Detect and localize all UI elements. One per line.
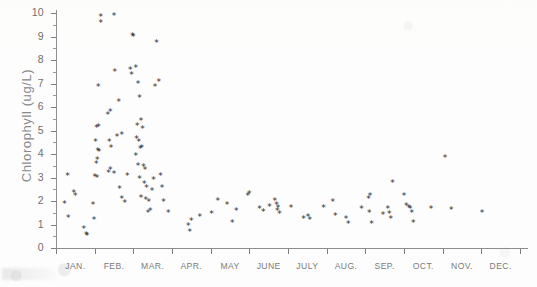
data-point [410, 220, 417, 227]
data-point [266, 204, 273, 211]
data-point [223, 202, 230, 209]
x-tick [481, 249, 482, 254]
data-point [61, 201, 68, 208]
data-point [441, 155, 448, 162]
data-point [92, 139, 99, 146]
x-tick-label: APR. [169, 261, 213, 271]
data-point [106, 139, 113, 146]
data-point [141, 167, 148, 174]
data-point [93, 175, 100, 182]
y-tick-label: 8 [26, 53, 44, 65]
data-point [130, 34, 137, 41]
y-tick-label: 2 [26, 194, 44, 206]
x-tick [288, 249, 289, 254]
data-point [401, 193, 408, 200]
y-tick-label: 9 [26, 30, 44, 42]
x-tick [365, 249, 366, 254]
y-tick-minor [53, 213, 56, 214]
x-tick-label: MAY [208, 261, 252, 271]
y-tick-label: 3 [26, 171, 44, 183]
data-point [288, 205, 295, 212]
data-point [246, 191, 253, 198]
x-tick-label: SEP. [363, 261, 407, 271]
data-point [118, 132, 125, 139]
data-point [111, 171, 118, 178]
y-tick-label: 0 [26, 241, 44, 253]
data-point [121, 200, 128, 207]
data-point [479, 210, 486, 217]
y-tick-major [51, 225, 56, 226]
y-tick-major [51, 13, 56, 14]
data-point [157, 173, 164, 180]
data-point [448, 207, 455, 214]
data-point [320, 205, 327, 212]
x-tick [404, 249, 405, 254]
y-tick-major [51, 154, 56, 155]
y-tick-label: 7 [26, 77, 44, 89]
y-tick-major [51, 37, 56, 38]
data-point [136, 95, 143, 102]
x-tick-label: JAN. [53, 261, 97, 271]
data-point [306, 217, 313, 224]
y-tick-minor [53, 142, 56, 143]
y-tick-minor [53, 25, 56, 26]
data-point [148, 188, 155, 195]
data-point [387, 216, 394, 223]
data-point [153, 40, 160, 47]
data-point [95, 124, 102, 131]
data-point [188, 218, 195, 225]
x-tick [95, 249, 96, 254]
data-point [186, 229, 193, 236]
y-tick-major [51, 131, 56, 132]
data-point [366, 210, 373, 217]
data-point [134, 81, 141, 88]
data-point [90, 217, 97, 224]
data-point [95, 84, 102, 91]
x-tick [443, 249, 444, 254]
data-point [107, 109, 114, 116]
data-point [329, 199, 336, 206]
data-point [408, 210, 415, 217]
y-tick-label: 4 [26, 147, 44, 159]
x-tick [211, 249, 212, 254]
y-tick-minor [53, 119, 56, 120]
data-point [345, 221, 352, 228]
data-point [165, 210, 172, 217]
y-tick-major [51, 178, 56, 179]
data-point [115, 99, 122, 106]
data-point [155, 79, 162, 86]
x-tick [249, 249, 250, 254]
data-point [158, 185, 165, 192]
x-tick-label: OCT. [401, 261, 445, 271]
data-point [233, 208, 240, 215]
y-tick-minor [53, 166, 56, 167]
y-tick-label: 1 [26, 218, 44, 230]
x-axis-line [56, 248, 528, 249]
y-tick-major [51, 107, 56, 108]
x-tick-label: AUG. [324, 261, 368, 271]
data-point [90, 202, 97, 209]
x-tick [520, 249, 521, 254]
data-point [138, 145, 145, 152]
data-point [65, 215, 72, 222]
x-tick [327, 249, 328, 254]
data-point [116, 186, 123, 193]
x-tick [172, 249, 173, 254]
data-point [389, 180, 396, 187]
data-point [97, 20, 104, 27]
x-tick-label: MAR. [131, 261, 175, 271]
y-tick-label: 5 [26, 124, 44, 136]
data-point [132, 65, 139, 72]
data-point [94, 157, 101, 164]
y-tick-minor [53, 236, 56, 237]
data-point [214, 198, 221, 205]
data-point [229, 220, 236, 227]
data-point [196, 214, 203, 221]
data-point [72, 193, 79, 200]
x-tick-label: FEB. [92, 261, 136, 271]
x-tick-label: NOV. [440, 261, 484, 271]
y-tick-minor [53, 189, 56, 190]
y-tick-major [51, 60, 56, 61]
y-tick-major [51, 201, 56, 202]
x-tick [56, 249, 57, 254]
